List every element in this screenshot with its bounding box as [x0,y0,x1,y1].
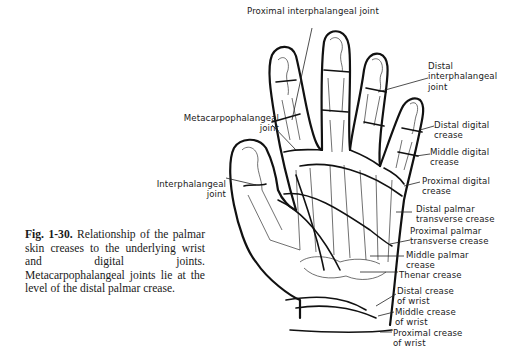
label-proximal-crease-of-wrist: Proximal crease of wrist [393,328,463,349]
figure-number: Fig. 1-30. [25,228,73,241]
hand-outline [230,31,423,325]
hand-anatomy-figure: Proximal interphalangeal joint Distal in… [0,0,513,360]
label-interphalangeal-joint: Interphalangeal joint [150,179,226,200]
label-middle-crease-of-wrist: Middle crease of wrist [395,307,456,328]
figure-caption: Fig. 1-30. Relationship of the palmar sk… [25,228,205,296]
label-distal-digital-crease: Distal digital crease [434,120,489,141]
label-distal-crease-of-wrist: Distal crease of wrist [397,286,454,307]
label-middle-palmar-crease: Middle palmar crease [406,250,469,271]
label-distal-palmar-transverse-crease: Distal palmar transverse crease [416,204,495,225]
label-proximal-interphalangeal-joint: Proximal interphalangeal joint [247,6,379,16]
creases [244,70,422,332]
label-distal-interphalangeal-joint: Distal interphalangeal joint [428,61,497,92]
label-proximal-digital-crease: Proximal digital crease [422,176,490,197]
label-metacarpophalangeal-joint: Metacarpophalangeal joint [154,113,279,134]
label-thenar-crease: Thenar crease [399,270,462,280]
bones [242,38,418,280]
label-proximal-palmar-transverse-crease: Proximal palmar transverse crease [410,226,489,247]
label-middle-digital-crease: Middle digital crease [430,147,489,168]
